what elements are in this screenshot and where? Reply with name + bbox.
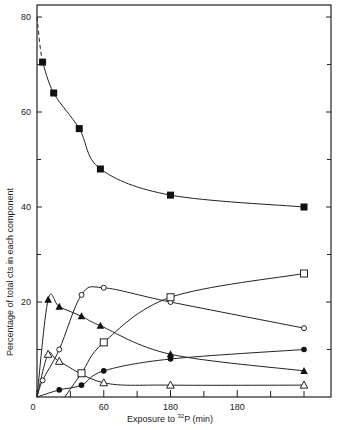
open-circle-marker xyxy=(101,285,106,290)
filled-squares-dashed-start xyxy=(37,17,43,62)
plot-border xyxy=(37,5,331,397)
axis-ticks xyxy=(37,17,331,397)
filled-square-marker xyxy=(167,192,174,199)
filled-triangle-marker xyxy=(44,296,52,303)
filled-circle-marker xyxy=(168,356,174,362)
open-circle-marker xyxy=(57,347,62,352)
data-curves xyxy=(37,17,304,397)
y-tick-label: 40 xyxy=(21,202,31,212)
open-circle-marker xyxy=(79,292,84,297)
filled-circle-marker xyxy=(56,387,62,393)
open-square-marker xyxy=(78,370,85,377)
x-tick-label: 180 xyxy=(163,402,178,412)
x-tick-label: 60 xyxy=(99,402,109,412)
x-tick-label: 0 xyxy=(30,402,35,412)
open-circle-marker xyxy=(40,378,45,383)
filled-circle-marker xyxy=(301,347,307,353)
y-axis-title: Percentage of total cts in each componen… xyxy=(5,187,15,356)
open-triangle-marker xyxy=(55,357,63,364)
y-tick-label: 80 xyxy=(21,12,31,22)
x-tick-label: 180 xyxy=(230,402,245,412)
x-axis-title-suffix: P (min) xyxy=(184,414,213,424)
chart: 20406080060180180 Percentage of total ct… xyxy=(0,0,337,430)
open-squares-curve xyxy=(65,274,304,398)
open-circle-marker xyxy=(302,326,307,331)
filled-triangle-marker xyxy=(97,322,105,329)
filled-square-marker xyxy=(50,90,57,97)
y-tick-label: 60 xyxy=(21,107,31,117)
plot-frame xyxy=(37,5,331,397)
open-square-marker xyxy=(167,294,174,301)
filled-triangle-marker xyxy=(78,312,86,319)
y-tick-label: 20 xyxy=(21,297,31,307)
axis-labels: 20406080060180180 xyxy=(21,12,245,412)
filled-square-marker xyxy=(97,166,104,173)
filled-circle-marker xyxy=(101,368,107,374)
x-axis-title-prefix: Exposure to xyxy=(127,414,178,424)
open-triangle-marker xyxy=(44,350,52,357)
x-axis-title: Exposure to 32P (min) xyxy=(127,413,213,424)
open-square-marker xyxy=(100,339,107,346)
open-triangle-marker xyxy=(300,381,308,388)
filled-circle-marker xyxy=(79,382,85,388)
open-square-marker xyxy=(301,270,308,277)
data-markers xyxy=(39,59,308,393)
filled-square-marker xyxy=(39,59,46,66)
filled-squares-curve xyxy=(43,62,304,207)
filled-square-marker xyxy=(76,125,83,132)
filled-square-marker xyxy=(301,204,308,211)
